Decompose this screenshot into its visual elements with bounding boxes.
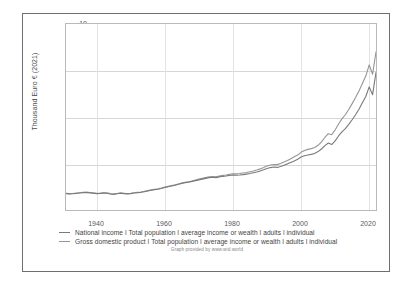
series-lines: [66, 24, 376, 210]
legend-entry-gdp[interactable]: Gross domestic product ǀ Total populatio…: [23, 238, 391, 245]
legend-label-national-income: National income ǀ Total population ǀ ave…: [75, 229, 315, 236]
legend-label-gdp: Gross domestic product ǀ Total populatio…: [75, 238, 337, 245]
x-tick-label-2000: 2000: [280, 220, 320, 227]
legend-swatch-gdp: [59, 241, 70, 242]
chart-credit: Graph provided by www.wid.world: [23, 247, 391, 252]
series-path: [66, 52, 376, 194]
series-path: [66, 72, 376, 194]
chart-figure: Thousand Euro € (2021) 10 7.5 5 2.5 1940…: [22, 13, 390, 272]
x-tick-label-1980: 1980: [212, 220, 252, 227]
plot-area-wrapper: Thousand Euro € (2021) 10 7.5 5 2.5 1940…: [23, 14, 391, 214]
plot-box: [65, 23, 377, 211]
x-tick-label-1940: 1940: [76, 220, 116, 227]
legend-entry-national-income[interactable]: National income ǀ Total population ǀ ave…: [23, 229, 391, 236]
chart-legend: National income ǀ Total population ǀ ave…: [23, 229, 391, 252]
legend-swatch-national-income: [59, 232, 70, 233]
x-tick-label-1960: 1960: [144, 220, 184, 227]
x-tick-label-2020: 2020: [348, 220, 388, 227]
y-axis-label: Thousand Euro € (2021): [31, 27, 38, 157]
